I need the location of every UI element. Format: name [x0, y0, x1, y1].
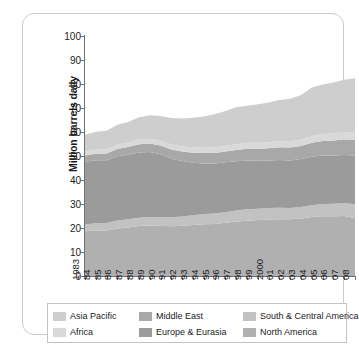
x-tick-label: 93	[178, 269, 189, 280]
x-tick-label: 87	[113, 269, 124, 280]
y-tick-label: 50	[70, 151, 81, 162]
x-tick-label: 1983	[70, 259, 81, 280]
legend-swatch-icon	[53, 328, 66, 337]
legend-label: Africa	[70, 327, 93, 337]
x-tick-label: 08	[340, 269, 351, 280]
x-tick-label: 07	[329, 269, 340, 280]
x-tick-label: 04	[297, 269, 308, 280]
legend-label: Middle East	[156, 311, 203, 321]
x-tick-label: 99	[243, 269, 254, 280]
legend-item: Africa	[53, 324, 139, 340]
y-tick-mark	[81, 204, 85, 205]
legend-swatch-icon	[139, 312, 152, 321]
y-tick-mark	[81, 60, 85, 61]
legend-item: Europe & Eurasia	[139, 324, 243, 340]
x-tick-label: 02	[275, 269, 286, 280]
x-tick-label: 03	[286, 269, 297, 280]
legend-swatch-icon	[243, 328, 256, 337]
x-tick-label: 94	[189, 269, 200, 280]
x-tick-label: 05	[308, 269, 319, 280]
x-tick-label: 95	[200, 269, 211, 280]
legend-item: North America	[243, 324, 343, 340]
plot-area: 0102030405060708090100 19838485868788899…	[85, 36, 355, 276]
legend-item: South & Central America	[243, 308, 343, 324]
y-tick-label: 40	[70, 175, 81, 186]
x-tick-label: 92	[167, 269, 178, 280]
x-tick-label: 97	[221, 269, 232, 280]
y-tick-label: 70	[70, 103, 81, 114]
y-tick-label: 90	[70, 55, 81, 66]
x-tick-label: 2000	[254, 259, 265, 280]
x-tick-label: 86	[102, 269, 113, 280]
y-tick-mark	[81, 156, 85, 157]
x-tick-mark	[355, 276, 356, 280]
x-tick-label: 91	[156, 269, 167, 280]
chart-legend: Asia PacificAfricaMiddle EastEurope & Eu…	[47, 303, 347, 343]
x-tick-label: 88	[124, 269, 135, 280]
legend-grid: Asia PacificAfricaMiddle EastEurope & Eu…	[53, 308, 345, 340]
x-tick-label: 96	[210, 269, 221, 280]
x-tick-label: 06	[318, 269, 329, 280]
stacked-area-series	[85, 36, 355, 276]
x-tick-label: 90	[146, 269, 157, 280]
y-tick-label: 60	[70, 127, 81, 138]
legend-label: South & Central America	[260, 311, 359, 321]
legend-swatch-icon	[243, 312, 256, 321]
y-tick-mark	[81, 36, 85, 37]
x-tick-label: 01	[264, 269, 275, 280]
y-tick-label: 80	[70, 79, 81, 90]
legend-item: Asia Pacific	[53, 308, 139, 324]
x-tick-label: 89	[135, 269, 146, 280]
y-tick-mark	[81, 84, 85, 85]
y-tick-mark	[81, 108, 85, 109]
x-tick-label: 85	[92, 269, 103, 280]
chart-card: Million barrels daily 010203040506070809…	[22, 13, 344, 335]
y-tick-label: 100	[64, 31, 81, 42]
y-tick-label: 20	[70, 223, 81, 234]
legend-item: Middle East	[139, 308, 243, 324]
y-tick-mark	[81, 180, 85, 181]
x-tick-label: 98	[232, 269, 243, 280]
y-tick-mark	[81, 252, 85, 253]
y-tick-mark	[81, 132, 85, 133]
legend-swatch-icon	[53, 312, 66, 321]
legend-label: North America	[260, 327, 317, 337]
legend-label: Europe & Eurasia	[156, 327, 227, 337]
x-tick-label: 84	[81, 269, 92, 280]
y-tick-mark	[81, 228, 85, 229]
legend-swatch-icon	[139, 328, 152, 337]
y-tick-label: 30	[70, 199, 81, 210]
y-tick-label: 10	[70, 247, 81, 258]
legend-label: Asia Pacific	[70, 311, 117, 321]
